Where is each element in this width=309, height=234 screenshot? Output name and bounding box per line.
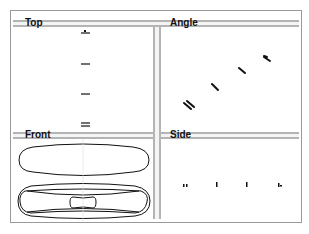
front-view-geometry [13, 139, 153, 221]
viewport-front[interactable] [13, 139, 153, 221]
angle-view-geometry [161, 27, 299, 132]
vertical-divider[interactable] [153, 27, 161, 219]
side-view-geometry [161, 139, 299, 221]
viewport-angle[interactable] [161, 27, 299, 132]
viewport-side[interactable] [161, 139, 299, 221]
viewport-top[interactable] [13, 27, 153, 132]
top-view-geometry [13, 27, 153, 132]
top-row-header-bar [13, 20, 299, 27]
